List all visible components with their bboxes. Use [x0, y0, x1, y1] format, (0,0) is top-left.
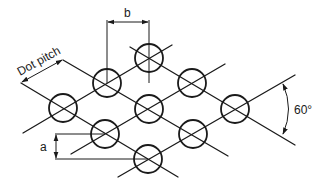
dot-pitch-diagram: b Dot pitch a 60°	[0, 0, 326, 188]
dimension-angle: 60°	[283, 84, 312, 134]
label-angle: 60°	[294, 103, 312, 117]
label-b: b	[124, 6, 131, 20]
dimension-a: a	[40, 134, 148, 159]
label-a: a	[40, 140, 47, 154]
dimension-dot-pitch: Dot pitch	[15, 43, 63, 82]
grid-lines-se	[21, 47, 295, 177]
